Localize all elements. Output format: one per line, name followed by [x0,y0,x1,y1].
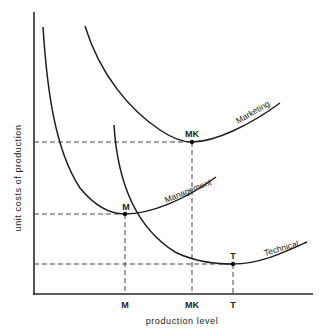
marketing-curve [85,26,280,142]
x-axis-title: production level [146,316,219,326]
mk-point-label: MK [185,129,199,139]
reference-lines [34,142,233,294]
m-point-label: M [122,202,130,212]
x-tick-mk: MK [185,300,199,310]
x-tick-m: M [121,300,129,310]
t-point-label: T [230,251,236,261]
cost-curves-diagram: M MK T Marketing Management Technical M … [0,0,327,336]
t-minimum-point [231,262,235,266]
m-minimum-point [123,212,127,216]
management-curve-label: Management [163,177,213,205]
mk-minimum-point [190,140,194,144]
y-axis-title: unit costs of production [13,125,23,232]
technical-curve-label: Technical [263,239,300,258]
x-tick-t: T [230,300,236,310]
